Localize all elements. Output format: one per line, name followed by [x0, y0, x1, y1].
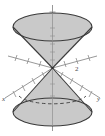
x-axis-label: x [1, 95, 6, 103]
cone-figure: 2 x y [0, 0, 105, 136]
y-axis-label: y [96, 95, 101, 103]
y-axis-negative-ticks [15, 55, 41, 67]
cone-diagram-canvas: 2 x y [0, 0, 105, 136]
cone-apex-point [51, 67, 53, 69]
upper-cone [13, 13, 92, 68]
tick-label-2: 2 [75, 65, 79, 73]
lower-cone [13, 68, 92, 126]
